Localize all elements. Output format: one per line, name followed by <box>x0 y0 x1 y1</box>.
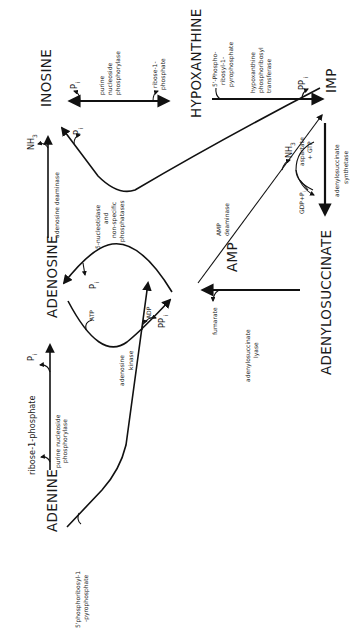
label-adss-1: adenylosuccinate <box>333 144 341 197</box>
label-prpp-adenine-1: 5'phosphoribosyl-1 <box>74 571 82 628</box>
label-nucleotidase-4: phosphatases <box>118 200 126 242</box>
label-gdp-pi: GDP+P i <box>298 191 307 214</box>
label-ribose1p-right-2: phosphate <box>159 58 167 90</box>
label-adp: ADP <box>145 306 152 319</box>
edge-adenosine-amp-loop <box>64 244 172 347</box>
label-adss-lyase-2: lyase <box>252 342 260 358</box>
node-hypoxanthine: HYPOXANTHINE <box>188 9 204 119</box>
svg-text:3: 3 <box>31 134 38 138</box>
label-pnp-right-1: purine <box>98 75 106 95</box>
edge-adenine-to-amp <box>67 283 156 527</box>
svg-text:i: i <box>77 127 84 129</box>
label-pi-right: P i <box>69 81 81 89</box>
svg-text:i: i <box>74 81 81 83</box>
label-prpp-adenine-2: -pyrophosphate <box>82 574 90 622</box>
svg-text:i: i <box>93 281 100 283</box>
svg-text:i: i <box>302 191 307 192</box>
svg-text:GDP+P: GDP+P <box>298 192 305 214</box>
label-nucleotidase-1: 5-nucleotidase <box>94 204 101 249</box>
svg-text:PP: PP <box>157 318 167 328</box>
label-nh3-amp: NH 3 <box>284 142 296 158</box>
svg-text:NH: NH <box>26 138 36 150</box>
label-pi-left: P i <box>26 353 38 361</box>
label-pnp-right-2: nucleoside <box>106 62 113 95</box>
node-inosine: INOSINE <box>38 49 54 107</box>
svg-text:PP: PP <box>297 80 307 90</box>
svg-text:P: P <box>72 130 82 135</box>
label-aspartate: aspartate <box>298 137 306 166</box>
edge-adenylosuccinate-amp <box>203 290 300 301</box>
svg-text:i: i <box>302 76 309 78</box>
label-pi-adenosine: P i <box>88 281 100 289</box>
label-nucleotidase-2: and <box>102 213 109 224</box>
node-adenylosuccinate: ADENYLOSUCCINATE <box>318 230 334 375</box>
svg-text:i: i <box>31 353 38 355</box>
label-pnp-right-3: phosphorylase <box>114 51 122 95</box>
label-hgprt-3: transferase <box>265 59 272 93</box>
label-ribose1p-left: ribose-1-phosphate <box>27 395 37 475</box>
label-amp-deaminase-1: AMP <box>215 223 222 236</box>
label-prpp-hyp-1: 5'-Phospho- <box>211 52 219 87</box>
svg-text:3: 3 <box>289 142 296 146</box>
label-adenosine-kinase-2: kinase <box>127 350 134 370</box>
label-adss-lyase-1: adenylosuccinate <box>244 329 252 382</box>
label-adenosine-deaminase: adenosine deaminase <box>53 172 60 238</box>
label-ppi-imp: PP i <box>297 76 309 90</box>
node-imp: IMP <box>323 68 339 93</box>
svg-text:P: P <box>69 84 79 89</box>
pathway-diagram: ADENINE ADENOSINE INOSINE HYPOXANTHINE A… <box>0 0 363 632</box>
label-gtp: + GTP <box>306 141 313 160</box>
label-fumarate: fumarate <box>211 307 218 335</box>
label-prpp-hyp-2: ribosyl-1- <box>219 57 227 85</box>
node-adenosine: ADENOSINE <box>44 235 60 318</box>
label-nh3-adenosine: NH 3 <box>26 134 38 150</box>
node-amp: AMP <box>224 242 240 272</box>
label-pnp-left-2: phosphorylase <box>61 419 69 463</box>
label-ppi-amp: PP i <box>157 314 169 328</box>
node-adenine: ADENINE <box>44 469 60 532</box>
svg-text:i: i <box>162 314 169 316</box>
label-pi-inosine: P i <box>72 127 84 135</box>
label-prpp-hyp-3: pyrophosphate <box>227 42 235 87</box>
label-ribose1p-right-1: ribose-1- <box>151 61 158 88</box>
svg-text:NH: NH <box>284 146 294 158</box>
label-hgprt-1: hypoxanthine <box>249 52 257 93</box>
svg-text:P: P <box>26 356 36 361</box>
edge-adenine-adenosine <box>40 345 50 470</box>
label-adenosine-kinase-1: adenosine <box>118 355 125 386</box>
label-hgprt-2: phosphoribosyl <box>257 47 265 93</box>
label-atp: ATP <box>88 310 95 321</box>
label-nucleotidase-3: non-specific <box>110 202 118 238</box>
label-amp-deaminase-2: deaminase <box>223 203 230 236</box>
edge-adenosine-inosine <box>38 137 48 238</box>
label-adss-2: synthetase <box>342 151 350 184</box>
svg-text:P: P <box>88 284 98 289</box>
